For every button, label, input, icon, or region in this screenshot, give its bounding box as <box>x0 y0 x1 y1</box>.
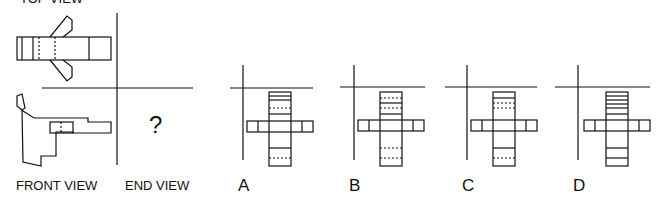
option-b-label[interactable]: B <box>349 176 360 196</box>
option-d-label[interactable]: D <box>573 176 585 196</box>
orthographic-projection-diagram <box>0 0 662 201</box>
option-b-drawing <box>340 65 425 166</box>
option-a-drawing <box>230 65 313 166</box>
option-a-label[interactable]: A <box>238 176 249 196</box>
front-view-label: FRONT VIEW <box>16 178 97 193</box>
top-view-drawing <box>17 16 111 81</box>
top-view-label: TOP VIEW <box>20 0 83 6</box>
front-view-drawing <box>17 94 111 166</box>
option-c-drawing <box>445 65 537 166</box>
unknown-end-view-mark: ? <box>149 111 162 139</box>
end-view-label: END VIEW <box>125 178 189 193</box>
option-c-label[interactable]: C <box>462 176 474 196</box>
option-d-drawing <box>555 65 650 166</box>
